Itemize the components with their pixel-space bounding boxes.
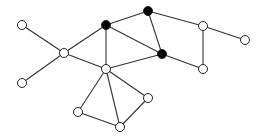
node-B <box>102 21 111 30</box>
node-A <box>18 21 27 30</box>
node-C <box>60 49 69 58</box>
node-L <box>199 65 208 74</box>
node-M <box>144 94 153 103</box>
edge-C-B <box>64 25 106 53</box>
node-K <box>241 36 250 45</box>
node-G <box>116 123 125 132</box>
edge-J-K <box>203 26 245 40</box>
node-F <box>74 108 83 117</box>
edge-A-C <box>22 25 64 53</box>
edges <box>22 11 245 127</box>
edge-H-J <box>148 11 203 26</box>
edge-G-M <box>120 98 148 127</box>
edge-I-L <box>162 54 203 69</box>
edge-E-F <box>78 69 106 112</box>
graph-diagram <box>0 0 264 139</box>
node-H <box>144 7 153 16</box>
node-J <box>199 22 208 31</box>
node-E <box>102 65 111 74</box>
edge-E-I <box>106 54 162 69</box>
edge-C-E <box>64 53 106 69</box>
edge-F-G <box>78 112 120 127</box>
node-I <box>158 50 167 59</box>
edge-D-C <box>22 53 64 83</box>
node-D <box>18 79 27 88</box>
edge-B-H <box>106 11 148 25</box>
